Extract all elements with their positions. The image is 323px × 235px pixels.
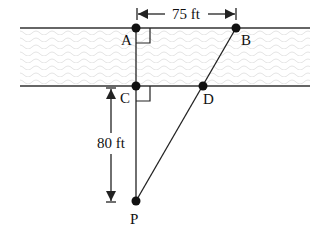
label-c: C [120, 90, 130, 106]
label-80ft: 80 ft [97, 135, 126, 151]
label-b: B [241, 32, 251, 48]
point-c [132, 82, 141, 91]
label-p: P [130, 211, 138, 227]
point-d [199, 82, 208, 91]
label-75ft: 75 ft [172, 6, 201, 22]
river-diagram: 75 ft 80 ft A B C D P [0, 0, 323, 235]
dimension-75ft: 75 ft [137, 6, 236, 22]
point-a [132, 24, 141, 33]
point-b [232, 24, 241, 33]
label-d: D [203, 91, 214, 107]
label-a: A [121, 32, 132, 48]
point-p [132, 197, 141, 206]
river-water [20, 29, 310, 85]
